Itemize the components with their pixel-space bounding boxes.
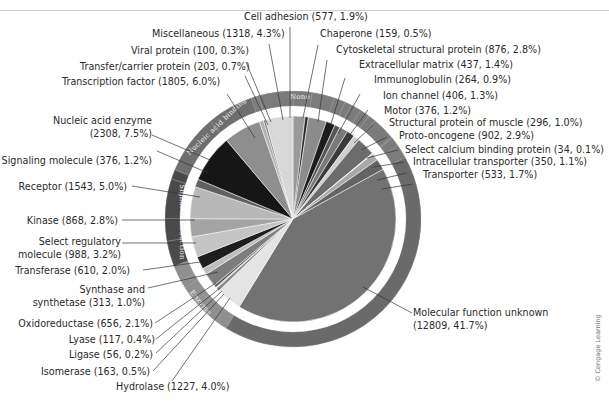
label-signaling-molecule: Signaling molecule (376, 1.2%) — [2, 155, 152, 166]
label-cell-adhesion: Cell adhesion (577, 1.9%) — [244, 11, 368, 22]
label-nucleic-acid-enzyme-values: (2308, 7.5%) — [90, 128, 152, 139]
ring-label-signal-transduction: Signal transduction — [178, 184, 186, 260]
label-isomerase: Isomerase (163, 0.5%) — [41, 366, 150, 377]
label-molecular-function-unknown-values: (12809, 41.7%) — [413, 320, 488, 331]
label-miscellaneous: Miscellaneous (1318, 4.3%) — [152, 28, 285, 39]
label-receptor: Receptor (1543, 5.0%) — [19, 181, 127, 192]
pie-chart: None Nucleic acid binding Signal transdu… — [0, 0, 609, 403]
label-transferase: Transferase (610, 2.0%) — [14, 265, 130, 276]
label-transporter: Transporter (533, 1.7%) — [422, 169, 537, 180]
label-proto-oncogene: Proto-oncogene (902, 2.9%) — [399, 130, 534, 141]
label-transcription-factor: Transcription factor (1805, 6.0%) — [61, 76, 220, 87]
pie-slices — [190, 116, 396, 322]
label-structural-muscle: Structural protein of muscle (296, 1.0%) — [389, 117, 583, 128]
label-nucleic-acid-enzyme: Nucleic acid enzyme — [53, 115, 152, 126]
label-molecular-function-unknown: Molecular function unknown — [413, 307, 548, 318]
label-hydrolase: Hydrolase (1227, 4.0%) — [116, 381, 229, 392]
label-select-regulatory: Select regulatory — [39, 236, 122, 247]
label-lyase: Lyase (117, 0.4%) — [69, 334, 155, 345]
label-ligase: Ligase (56, 0.2%) — [69, 349, 153, 360]
label-cytoskeletal: Cytoskeletal structural protein (876, 2.… — [336, 44, 541, 55]
label-extracellular-matrix: Extracellular matrix (437, 1.4%) — [359, 59, 513, 70]
label-select-regulatory-values: molecule (988, 3.2%) — [18, 249, 121, 260]
copyright-credit: © Cengage Learning — [594, 314, 602, 382]
label-select-calcium: Select calcium binding protein (34, 0.1%… — [405, 144, 604, 155]
label-ion-channel: Ion channel (406, 1.3%) — [383, 90, 498, 101]
label-oxidoreductase: Oxidoreductase (656, 2.1%) — [18, 318, 153, 329]
label-chaperone: Chaperone (159, 0.5%) — [320, 28, 432, 39]
label-synthase-values: synthetase (313, 1.0%) — [33, 297, 145, 308]
label-kinase: Kinase (868, 2.8%) — [27, 215, 118, 226]
label-transfer-carrier: Transfer/carrier protein (203, 0.7%) — [79, 61, 250, 72]
label-synthase: Synthase and — [79, 284, 145, 295]
label-viral-protein: Viral protein (100, 0.3%) — [131, 45, 249, 56]
label-motor: Motor (376, 1.2%) — [384, 105, 471, 116]
label-intracellular-transporter: Intracellular transporter (350, 1.1%) — [413, 156, 587, 167]
label-immunoglobulin: Immunoglobulin (264, 0.9%) — [374, 74, 511, 85]
